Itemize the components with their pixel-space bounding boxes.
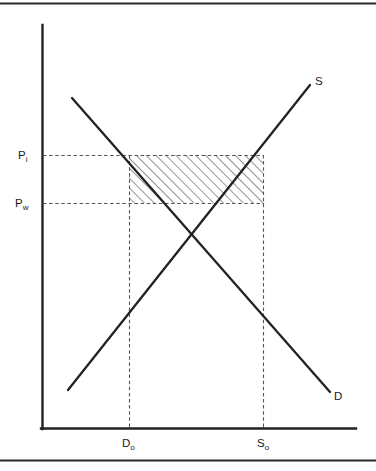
quantity-demanded-subscript: o <box>130 443 135 452</box>
hatched-region <box>129 155 263 203</box>
price-internal-subscript: i <box>26 155 28 164</box>
supply-curve <box>68 85 310 390</box>
quantity-supplied-label: So <box>257 437 270 452</box>
demand-curve <box>72 98 330 392</box>
price-world-label: Pw <box>15 197 29 212</box>
figure-container: S D Pi Pw Do So <box>0 0 376 471</box>
supply-demand-chart: S D Pi Pw Do So <box>0 0 376 471</box>
price-world-subscript: w <box>22 203 29 212</box>
demand-curve-label: D <box>334 390 342 402</box>
quantity-supplied-subscript: o <box>265 443 270 452</box>
price-internal-label: Pi <box>18 149 28 164</box>
quantity-demanded-label: Do <box>122 437 135 452</box>
quantity-demanded-base: D <box>122 437 130 449</box>
supply-curve-label: S <box>315 75 323 87</box>
